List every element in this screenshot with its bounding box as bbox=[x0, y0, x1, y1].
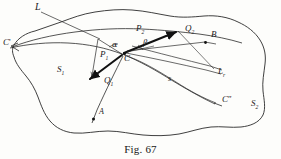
label-line-lr: Lr bbox=[218, 67, 225, 78]
label-point-a: A bbox=[99, 108, 104, 116]
label-vector-p1: P1 bbox=[100, 50, 108, 61]
label-vector-q1: Q1 bbox=[104, 76, 113, 87]
label-point-c: C bbox=[124, 54, 130, 63]
label-region-s2: S2 bbox=[251, 99, 258, 110]
label-vector-p2: P2 bbox=[136, 24, 144, 35]
point-C-double-prime-marker bbox=[214, 103, 222, 106]
curve-L bbox=[12, 12, 242, 47]
label-angle-alpha: α bbox=[112, 41, 117, 49]
label-vector-q2: Q2 bbox=[185, 24, 194, 35]
label-point-c-double-prime: C″ bbox=[222, 95, 232, 104]
label-angle-beta: β bbox=[143, 39, 148, 47]
label-point-c-prime: C' bbox=[3, 38, 11, 47]
figure-caption: Fig. 67 bbox=[0, 143, 281, 155]
label-arc-s: s bbox=[168, 75, 171, 83]
figure-canvas: L C' C C″ A B P1 P2 Q1 Q2 Lr s S1 S2 α β… bbox=[0, 0, 281, 159]
label-region-s1: S1 bbox=[57, 65, 64, 76]
label-line-L: L bbox=[35, 2, 41, 12]
line-Lr bbox=[126, 46, 222, 74]
label-point-b: B bbox=[211, 30, 217, 39]
arc-s bbox=[127, 56, 216, 103]
curve-interface bbox=[10, 43, 215, 104]
